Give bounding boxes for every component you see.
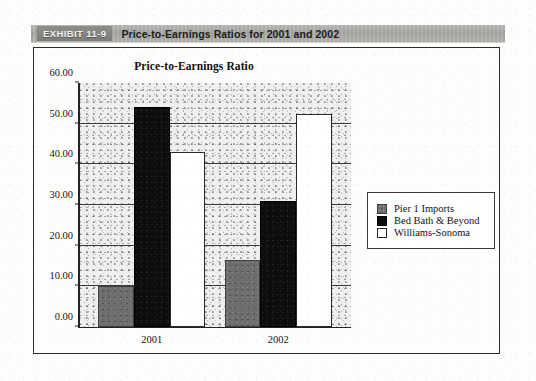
plot-wrapper: 60.0050.0040.0030.0020.0010.000.00 20012… [79, 83, 351, 327]
bar[interactable] [225, 260, 261, 327]
y-axis-tick-label: 60.00 [49, 67, 73, 78]
y-axis-tick-label: 0.00 [55, 311, 73, 322]
exhibit-number-tag: EXHIBIT 11-9 [37, 26, 112, 41]
bar-group-2002: 2002 [225, 83, 332, 327]
exhibit-header-bar: EXHIBIT 11-9 Price-to-Earnings Ratios fo… [31, 25, 505, 42]
legend-label: Williams-Sonoma [394, 227, 470, 238]
exhibit-caption: Price-to-Earnings Ratios for 2001 and 20… [121, 28, 339, 40]
legend-label: Pier 1 Imports [394, 203, 454, 214]
exhibit-page: EXHIBIT 11-9 Price-to-Earnings Ratios fo… [0, 0, 536, 381]
y-axis-tick-label: 40.00 [49, 148, 73, 159]
legend-item[interactable]: Pier 1 Imports [377, 203, 486, 214]
bar[interactable] [134, 107, 170, 327]
x-axis-category-label: 2001 [98, 334, 205, 345]
bar-group-2001: 2001 [98, 83, 205, 327]
legend-swatch-icon [377, 216, 387, 226]
legend-item[interactable]: Bed Bath & Beyond [377, 215, 486, 226]
y-axis-tick-label: 20.00 [49, 229, 73, 240]
bars-layer: 20012002 [79, 83, 351, 327]
bar[interactable] [98, 286, 134, 327]
legend-label: Bed Bath & Beyond [394, 215, 479, 226]
y-axis-tick-label: 50.00 [49, 107, 73, 118]
bar[interactable] [296, 114, 332, 328]
bar[interactable] [170, 152, 206, 327]
legend-swatch-icon [377, 228, 387, 238]
bar[interactable] [260, 201, 296, 327]
figure-frame: Price-to-Earnings Ratio 60.0050.0040.003… [33, 47, 500, 354]
chart-title: Price-to-Earnings Ratio [34, 60, 354, 72]
chart-legend: Pier 1 ImportsBed Bath & BeyondWilliams-… [367, 192, 495, 249]
legend-item[interactable]: Williams-Sonoma [377, 227, 486, 238]
legend-swatch-icon [377, 204, 387, 214]
y-axis-tick-label: 10.00 [49, 270, 73, 281]
y-axis-tick-label: 30.00 [49, 189, 73, 200]
x-axis-category-label: 2002 [225, 334, 332, 345]
